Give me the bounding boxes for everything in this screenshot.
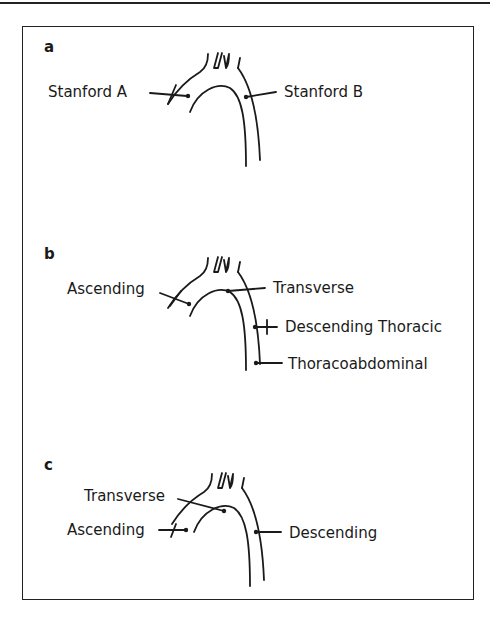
aortic-arch-a	[168, 53, 260, 166]
label-descending-c: Descending	[289, 524, 377, 542]
aortic-arch-b	[168, 257, 260, 370]
panel-c: c Transverse Ascending Descending	[44, 456, 377, 586]
label-stanford-b: Stanford B	[284, 83, 363, 101]
panel-label-b: b	[44, 245, 55, 263]
label-ascending-c: Ascending	[67, 521, 145, 539]
panel-b: b Ascending Transverse Descending Thorac…	[44, 245, 442, 373]
label-descending-thoracic-b: Descending Thoracic	[285, 318, 442, 336]
label-thoracoabdominal-b: Thoracoabdominal	[287, 355, 428, 373]
aortic-dissection-diagram: a Stanford A Stanford B b Ascending Tran…	[0, 0, 490, 619]
panel-a: a Stanford A Stanford B	[44, 38, 363, 166]
label-ascending-b: Ascending	[67, 280, 145, 298]
label-stanford-a: Stanford A	[48, 83, 128, 101]
panel-label-a: a	[44, 38, 54, 56]
panel-label-c: c	[44, 456, 53, 474]
label-transverse-b: Transverse	[272, 279, 354, 297]
label-transverse-c: Transverse	[83, 487, 165, 505]
